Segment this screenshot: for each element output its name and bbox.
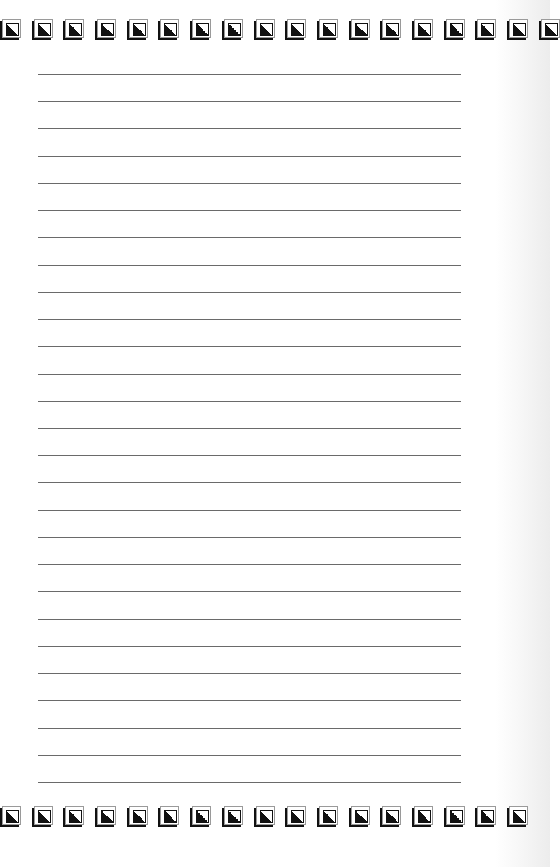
ruled-lines-area [38, 0, 461, 867]
tile-frame [65, 806, 84, 825]
triangle-icon [386, 810, 399, 823]
bevel-square-triangle-icon [412, 806, 433, 827]
tile-frame [256, 806, 275, 825]
triangle-icon [291, 810, 304, 823]
tile-frame [97, 806, 116, 825]
ruled-line [38, 510, 461, 511]
bevel-square-triangle-icon [475, 19, 496, 40]
ruled-line [38, 728, 461, 729]
tile-frame [382, 806, 401, 825]
ruled-line [38, 537, 461, 538]
tile-frame [446, 806, 465, 825]
ruled-line [38, 156, 461, 157]
tile-frame [2, 806, 21, 825]
triangle-icon [513, 23, 526, 36]
bevel-square-triangle-icon [32, 806, 53, 827]
ruled-line [38, 619, 461, 620]
ruled-line [38, 374, 461, 375]
triangle-icon [228, 810, 241, 823]
ruled-line [38, 210, 461, 211]
tile-frame [509, 19, 528, 38]
triangle-icon [164, 810, 177, 823]
bevel-square-triangle-icon [380, 806, 401, 827]
ruled-line [38, 591, 461, 592]
tile-frame [414, 806, 433, 825]
ruled-line [38, 237, 461, 238]
ruled-line [38, 346, 461, 347]
triangle-icon [513, 810, 526, 823]
bevel-square-triangle-icon [222, 806, 243, 827]
triangle-icon [196, 810, 209, 823]
tile-frame [160, 806, 179, 825]
tile-frame [287, 806, 306, 825]
ruled-line [38, 700, 461, 701]
bevel-square-triangle-icon [507, 19, 528, 40]
bevel-square-triangle-icon [475, 806, 496, 827]
bevel-square-triangle-icon [158, 806, 179, 827]
bevel-square-triangle-icon [63, 806, 84, 827]
tile-frame [2, 19, 21, 38]
ruled-line [38, 455, 461, 456]
triangle-icon [101, 810, 114, 823]
triangle-icon [418, 810, 431, 823]
tile-frame [129, 806, 148, 825]
ruled-line [38, 183, 461, 184]
ruled-line [38, 673, 461, 674]
triangle-icon [323, 810, 336, 823]
tile-frame [541, 19, 560, 38]
tile-frame [477, 806, 496, 825]
triangle-icon [69, 810, 82, 823]
tile-frame [192, 806, 211, 825]
ruled-line [38, 101, 461, 102]
bevel-square-triangle-icon [0, 19, 21, 40]
ruled-line [38, 292, 461, 293]
triangle-icon [481, 23, 494, 36]
triangle-icon [133, 810, 146, 823]
ruled-line [38, 646, 461, 647]
triangle-icon [260, 810, 273, 823]
ruled-line [38, 74, 461, 75]
triangle-icon [38, 810, 51, 823]
triangle-icon [355, 810, 368, 823]
ruled-line [38, 265, 461, 266]
bevel-square-triangle-icon [254, 806, 275, 827]
tile-frame [477, 19, 496, 38]
ruled-line [38, 755, 461, 756]
triangle-icon [450, 810, 463, 823]
tile-frame [319, 806, 338, 825]
ruled-line [38, 128, 461, 129]
bevel-square-triangle-icon [190, 806, 211, 827]
tile-frame [509, 806, 528, 825]
bevel-square-triangle-icon [444, 806, 465, 827]
bevel-square-triangle-icon [0, 806, 21, 827]
bevel-square-triangle-icon [539, 19, 560, 40]
triangle-icon [6, 810, 19, 823]
bevel-square-triangle-icon [349, 806, 370, 827]
ruled-line [38, 482, 461, 483]
ruled-line [38, 564, 461, 565]
ruled-line [38, 782, 461, 783]
bevel-square-triangle-icon [317, 806, 338, 827]
triangle-icon [6, 23, 19, 36]
triangle-icon [481, 810, 494, 823]
bevel-square-triangle-icon [95, 806, 116, 827]
ruled-line [38, 401, 461, 402]
bevel-square-triangle-icon [507, 806, 528, 827]
bevel-square-triangle-icon [127, 806, 148, 827]
triangle-icon [545, 23, 558, 36]
ruled-line [38, 428, 461, 429]
bottom-decorative-border [0, 806, 550, 828]
ruled-line [38, 319, 461, 320]
bevel-square-triangle-icon [285, 806, 306, 827]
tile-frame [34, 806, 53, 825]
tile-frame [224, 806, 243, 825]
tile-frame [351, 806, 370, 825]
